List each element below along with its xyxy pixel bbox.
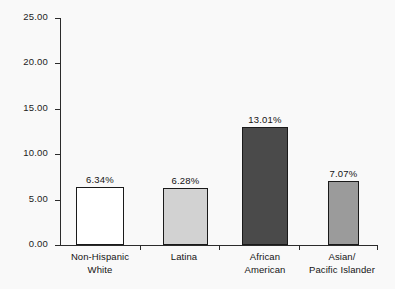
x-tick-2 <box>219 245 220 250</box>
x-tick-1 <box>140 245 141 250</box>
y-tick-label-3: 15.00 <box>23 102 48 113</box>
plot-area: 0.00 5.00 10.00 15.00 20.00 25.00 6.34% … <box>60 18 378 245</box>
x-category-label-non-hispanic-white: Non-Hispanic White <box>60 251 140 276</box>
x-category-line-3-0: Asian/ <box>302 251 382 264</box>
x-category-label-asian-pacific-islander: Asian/ Pacific Islander <box>302 251 382 276</box>
y-tick-1: 5.00 <box>55 200 60 201</box>
y-tick-label-1: 5.00 <box>29 193 48 204</box>
bar-latina[interactable]: 6.28% <box>163 188 208 245</box>
y-tick-5: 25.00 <box>55 18 60 19</box>
x-category-label-african-american: African American <box>226 251 304 276</box>
y-tick-label-0: 0.00 <box>29 238 48 249</box>
y-tick-2: 10.00 <box>55 154 60 155</box>
bar-african-american[interactable]: 13.01% <box>242 127 288 245</box>
x-category-line-0-1: White <box>60 264 140 277</box>
x-category-label-latina: Latina <box>145 251 223 264</box>
y-tick-label-5: 25.00 <box>23 11 48 22</box>
bar-chart-figure: Percent 0.00 5.00 10.00 15.00 20.00 25.0… <box>0 0 395 289</box>
bar-non-hispanic-white[interactable]: 6.34% <box>76 187 124 245</box>
x-category-line-0-0: Non-Hispanic <box>60 251 140 264</box>
x-category-line-1-0: Latina <box>145 251 223 264</box>
y-tick-label-2: 10.00 <box>23 147 48 158</box>
y-axis-line <box>60 18 61 245</box>
y-tick-0: 0.00 <box>55 245 60 246</box>
y-tick-4: 20.00 <box>55 63 60 64</box>
y-tick-3: 15.00 <box>55 109 60 110</box>
bar-value-label-2: 13.01% <box>248 114 281 125</box>
bar-value-label-0: 6.34% <box>86 174 114 185</box>
x-category-line-2-1: American <box>226 264 304 277</box>
x-tick-3 <box>299 245 300 250</box>
x-category-line-3-1: Pacific Islander <box>302 264 382 277</box>
x-tick-4 <box>377 245 378 250</box>
bar-value-label-3: 7.07% <box>330 168 358 179</box>
y-tick-label-4: 20.00 <box>23 56 48 67</box>
x-category-line-2-0: African <box>226 251 304 264</box>
bar-asian-pacific-islander[interactable]: 7.07% <box>328 181 359 245</box>
bar-value-label-1: 6.28% <box>172 175 200 186</box>
